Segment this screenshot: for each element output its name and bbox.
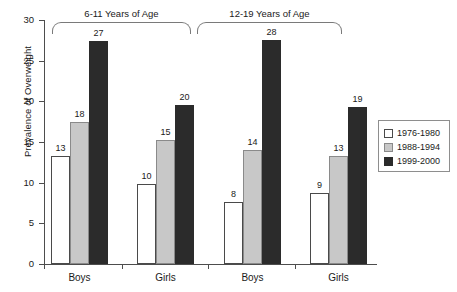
bar-chart: Prevalence of Overweight 302520151050 6-… [0, 0, 457, 292]
bar [224, 202, 243, 264]
bar [348, 107, 367, 264]
x-axis-category-label: Boys [204, 272, 301, 283]
y-tick-label: 0 [12, 259, 34, 268]
bar-value-label: 27 [82, 29, 115, 38]
bar-value-label: 28 [255, 28, 288, 37]
y-tick-label: 20 [12, 96, 34, 105]
y-axis-line [44, 20, 45, 265]
gray-square-icon [384, 143, 393, 152]
y-tick-label: 10 [12, 178, 34, 187]
y-tick-mark [39, 223, 44, 224]
y-tick-mark [39, 101, 44, 102]
legend-item: 1988-1994 [384, 140, 449, 154]
x-tick-mark [208, 264, 209, 269]
bar [89, 41, 108, 264]
y-tick-label: 15 [12, 137, 34, 146]
bar [243, 150, 262, 264]
bar [137, 184, 156, 264]
x-axis-category-label: Girls [290, 272, 387, 283]
bar-value-label: 19 [341, 95, 374, 104]
legend-item-label: 1976-1980 [397, 129, 440, 138]
legend-item-label: 1999-2000 [397, 157, 440, 166]
y-tick-mark [39, 183, 44, 184]
x-tick-mark [295, 264, 296, 269]
bar [70, 122, 89, 264]
bar [175, 105, 194, 264]
bar [51, 156, 70, 264]
x-axis-category-label: Boys [31, 272, 128, 283]
black-square-icon [384, 157, 393, 166]
bar [310, 193, 329, 264]
y-tick-label: 25 [12, 56, 34, 65]
legend: 1976-1980 1988-1994 1999-2000 [378, 120, 450, 172]
bar-value-label: 20 [168, 93, 201, 102]
legend-item-label: 1988-1994 [397, 143, 440, 152]
y-tick-label: 30 [12, 15, 34, 24]
bar [329, 156, 348, 264]
legend-item: 1976-1980 [384, 126, 449, 140]
y-tick-mark [39, 20, 44, 21]
x-axis-line [44, 264, 377, 265]
group-bracket [52, 22, 191, 34]
white-square-icon [384, 129, 393, 138]
group-title: 12-19 Years of Age [197, 8, 342, 19]
y-tick-label: 5 [12, 218, 34, 227]
x-tick-mark [122, 264, 123, 269]
bar [156, 140, 175, 264]
y-tick-mark [39, 61, 44, 62]
group-title: 6-11 Years of Age [52, 8, 191, 19]
x-tick-mark [44, 264, 45, 269]
legend-item: 1999-2000 [384, 154, 449, 168]
x-axis-category-label: Girls [117, 272, 214, 283]
bar [262, 40, 281, 264]
